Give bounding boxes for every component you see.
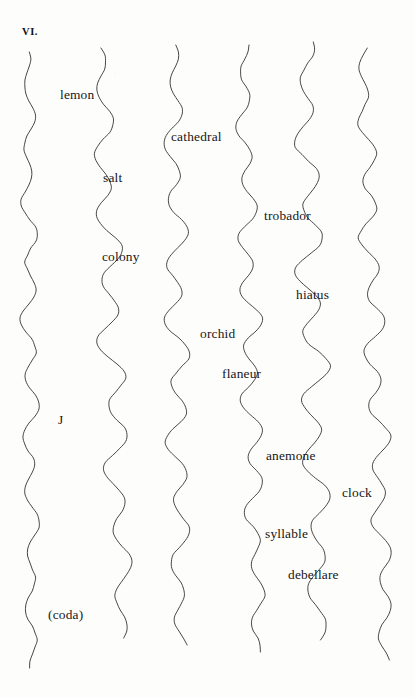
word-j: J — [58, 413, 63, 426]
word-orchid: orchid — [200, 327, 235, 340]
wavy-strand-group — [0, 0, 415, 697]
word-debellare: debellare — [288, 568, 339, 581]
word-anemone: anemone — [266, 449, 316, 462]
poem-page: VI. lemoncathedralsalttrobadorcolonyhiat… — [0, 0, 415, 697]
section-number: VI. — [22, 26, 38, 37]
wavy-strand — [236, 45, 265, 652]
word-syllable: syllable — [265, 527, 308, 540]
word-lemon: lemon — [60, 88, 94, 101]
word-salt: salt — [103, 171, 122, 184]
wavy-strand — [295, 42, 331, 640]
word-hiatus: hiatus — [296, 288, 329, 301]
wavy-strand — [20, 52, 39, 668]
word-colony: colony — [102, 250, 140, 263]
word-trobador: trobador — [264, 209, 311, 222]
word-flaneur: flaneur — [222, 367, 261, 380]
word-cathedral: cathedral — [171, 130, 222, 143]
word-coda: (coda) — [48, 608, 83, 621]
wavy-strand — [358, 48, 391, 660]
paper-grain-texture — [0, 0, 415, 697]
wavy-strand — [94, 48, 132, 638]
word-clock: clock — [342, 486, 372, 499]
